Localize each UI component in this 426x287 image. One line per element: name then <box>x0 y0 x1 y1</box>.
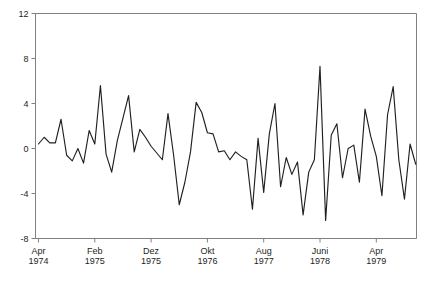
x-tick-label-month: Dez <box>121 246 181 256</box>
x-tick-label: Dez1975 <box>121 246 181 266</box>
x-tick-label-year: 1975 <box>121 256 181 266</box>
line-chart-plot <box>0 0 426 287</box>
x-tick-label-year: 1978 <box>290 256 350 266</box>
x-tick-label: Juni1978 <box>290 246 350 266</box>
x-tick-label-year: 1974 <box>9 256 69 266</box>
y-tick-label: -4 <box>0 189 29 199</box>
x-axis-ticks <box>39 239 377 243</box>
x-tick-label-year: 1976 <box>177 256 237 266</box>
x-tick-label: Apr1979 <box>346 246 406 266</box>
x-tick-label-year: 1979 <box>346 256 406 266</box>
x-tick-label-month: Feb <box>65 246 125 256</box>
x-tick-label: Aug1977 <box>234 246 294 266</box>
x-tick-label-month: Okt <box>177 246 237 256</box>
chart-container: -8-404812 Apr1974Feb1975Dez1975Okt1976Au… <box>0 0 426 287</box>
x-tick-label-month: Aug <box>234 246 294 256</box>
axis-frame <box>36 14 417 239</box>
x-tick-label-month: Apr <box>9 246 69 256</box>
y-tick-label: -8 <box>0 234 29 244</box>
y-tick-label: 8 <box>0 54 29 64</box>
x-tick-label: Feb1975 <box>65 246 125 266</box>
y-axis-ticks <box>32 14 36 239</box>
x-tick-label-year: 1977 <box>234 256 294 266</box>
y-tick-label: 4 <box>0 99 29 109</box>
x-tick-label-month: Juni <box>290 246 350 256</box>
data-series-line <box>39 66 416 220</box>
y-tick-label: 0 <box>0 144 29 154</box>
y-tick-label: 12 <box>0 9 29 19</box>
x-tick-label-year: 1975 <box>65 256 125 266</box>
x-tick-label: Apr1974 <box>9 246 69 266</box>
x-tick-label: Okt1976 <box>177 246 237 266</box>
x-tick-label-month: Apr <box>346 246 406 256</box>
